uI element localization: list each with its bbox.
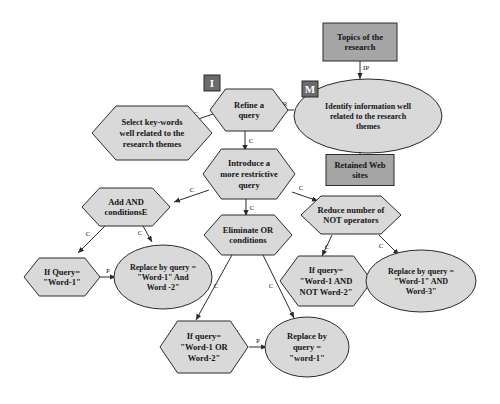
badge-text: M (305, 83, 316, 95)
node-introduce[interactable]: Introduce amore restrictivequery (203, 149, 295, 199)
node-label-line: Replace by (287, 331, 328, 341)
edge-line (78, 226, 105, 253)
edge-label: C (325, 243, 330, 251)
node-label-line: Eliminate OR (223, 225, 274, 235)
edge-refine-to-introduce: C (245, 131, 254, 151)
edge-label: C (299, 184, 304, 192)
node-label-line: "Word-1" And (137, 273, 189, 282)
node-label-line: "Word-1" (43, 277, 80, 287)
badge-i: I (204, 75, 220, 91)
node-label-line: related to the research (330, 112, 407, 121)
node-label-line: sites (352, 170, 368, 180)
node-label-line: well related to the (120, 128, 185, 138)
node-ifword1[interactable]: If Query="Word-1" (24, 258, 100, 296)
node-label-line: Reduce number of (318, 205, 385, 215)
edge-label: C (379, 242, 384, 250)
edge-iforword-to-replaceword1: P (249, 337, 267, 347)
node-label-line: If Query= (44, 267, 80, 277)
node-label-line: If query= (309, 265, 344, 275)
node-label-line: query = (293, 342, 321, 352)
node-label-line: Word-3" (406, 287, 437, 296)
node-label-line: Retained Web (334, 160, 385, 170)
node-label-line: Word-2" (188, 353, 221, 363)
flowchart-svg: IPRIPCCCCCCCPCCPCCP Topics of theresearc… (0, 0, 500, 404)
node-label-line: conditionsE (105, 207, 148, 217)
edge-label: C (190, 186, 195, 194)
edge-line (292, 192, 318, 201)
node-label-line: Word -2" (147, 283, 180, 292)
edge-label: C (214, 282, 219, 290)
badge-m: M (302, 81, 318, 97)
node-label-line: query (238, 110, 260, 120)
edge-addand-to-replaceand2: C (138, 226, 152, 242)
edge-label: P (106, 267, 110, 275)
node-ifand1and2[interactable]: If query="Word-1 ANDNOT Word-2" (280, 256, 372, 306)
node-label-line: Introduce a (228, 158, 271, 168)
edge-label: C (249, 137, 254, 145)
node-label-line: research themes (123, 139, 182, 149)
node-replaceand2[interactable]: Replace by query ="Word-1" AndWord -2" (114, 245, 212, 309)
node-label-line: "Word-1 OR (180, 342, 228, 352)
edge-reducenot-to-replaceand3: C (379, 235, 399, 255)
node-label-line: conditions (229, 235, 267, 245)
edge-label: C (86, 230, 91, 238)
edge-addand-to-ifword1: C (78, 226, 105, 253)
node-reducenot[interactable]: Reduce number ofNOT operators (301, 196, 401, 234)
edge-introduce-to-elimor: C (246, 199, 255, 216)
node-label-line: NOT operators (323, 215, 379, 225)
node-retained[interactable]: Retained Websites (326, 155, 394, 186)
edge-reducenot-to-ifand1and2: C (322, 235, 332, 256)
node-iforword[interactable]: If query="Word-1 ORWord-2" (160, 321, 248, 373)
node-label-line: Topics of the (337, 32, 383, 42)
node-label-line: Add AND (108, 197, 144, 207)
node-label-line: NOT Word-2" (300, 287, 353, 297)
edge-introduce-to-addand: C (174, 186, 209, 202)
edge-label: IP (363, 64, 369, 72)
node-label-line: If query= (187, 331, 222, 341)
edge-line (143, 226, 152, 242)
node-replaceand3[interactable]: Replace by query ="Word-1" ANDWord-3" (366, 250, 476, 312)
node-label-line: themes (356, 122, 380, 131)
node-label-line: Replace by query = (388, 267, 455, 276)
node-selectkw[interactable]: Select key-wordswell related to theresea… (92, 106, 212, 160)
node-label-line: Replace by query = (130, 263, 197, 272)
node-label-line: more restrictive (220, 169, 278, 179)
node-replaceword1[interactable]: Replace byquery ="word-1" (265, 317, 349, 377)
node-label-line: Select key-words (121, 117, 183, 127)
edge-label: P (256, 337, 260, 345)
node-label-line: "word-1" (289, 353, 324, 363)
badge-text: I (210, 77, 214, 89)
edge-label: C (269, 282, 274, 290)
node-refine[interactable]: Refine aquery (210, 89, 288, 131)
node-addand[interactable]: Add ANDconditionsE (82, 188, 170, 226)
edge-topics-to-identify: IP (360, 61, 369, 79)
node-label-line: "Word-1" AND (394, 277, 448, 286)
node-label-line: Refine a (234, 100, 265, 110)
edge-label: C (250, 204, 255, 212)
node-label-line: "Word-1 AND (300, 276, 353, 286)
node-elimor[interactable]: Eliminate ORconditions (204, 215, 292, 255)
node-label-line: research (345, 42, 376, 52)
node-label-line: Identify information well (325, 102, 412, 111)
edge-introduce-to-reducenot: C (292, 184, 318, 201)
edge-label: C (138, 229, 143, 237)
diagram-canvas: IPRIPCCCCCCCPCCPCCP Topics of theresearc… (0, 0, 500, 404)
node-topics[interactable]: Topics of theresearch (323, 23, 397, 61)
node-label-line: query (238, 180, 260, 190)
nodes-layer: Topics of theresearchIdentify informatio… (24, 23, 476, 377)
